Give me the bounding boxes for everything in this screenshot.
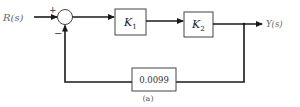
input-label: R(s) [2, 12, 24, 23]
feedback-block: 0.0099 [132, 68, 176, 91]
feedback-gain: 0.0099 [139, 75, 169, 85]
output-label: Y(s) [266, 19, 283, 29]
block-k1: K1 [115, 9, 146, 35]
summing-junction [58, 10, 73, 25]
k2-sub: 2 [200, 25, 204, 33]
minus-sign: − [54, 28, 62, 39]
k1-sub: 1 [132, 23, 136, 31]
block-diagram: R(s) + − K1 K2 Y(s) 0.0099 (a) [0, 0, 300, 107]
plus-sign: + [49, 5, 57, 15]
block-k2: K2 [184, 12, 213, 37]
figure-caption: (a) [142, 94, 153, 103]
